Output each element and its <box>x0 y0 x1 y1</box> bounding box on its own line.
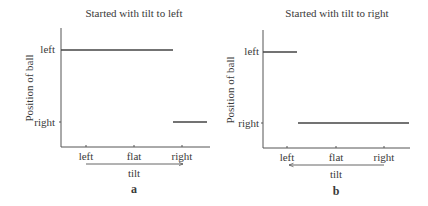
panel-a: Started with tilt to left Position of ba… <box>23 7 210 196</box>
panel-a-xtick-flat: flat <box>127 150 142 162</box>
panel-a-ytick-right: right <box>34 116 55 128</box>
panel-a-ylabel: Position of ball <box>23 54 35 121</box>
panel-b: Started with tilt to right Position of b… <box>224 7 410 198</box>
panel-a-ytick-left: left <box>40 43 55 55</box>
panel-a-xtick-left: left <box>79 150 94 162</box>
panel-b-label: b <box>333 184 340 198</box>
panel-b-ytick-left: left <box>244 45 259 57</box>
panel-b-ylabel: Position of ball <box>224 56 236 123</box>
panel-b-xtick-left: left <box>280 151 295 163</box>
panel-a-xlabel: tilt <box>128 167 140 179</box>
panel-a-title: Started with tilt to left <box>85 7 182 19</box>
panel-b-ytick-right: right <box>238 117 259 129</box>
panel-a-label: a <box>131 182 137 196</box>
panel-b-xtick-right: right <box>374 151 395 163</box>
figure: Started with tilt to left Position of ba… <box>0 0 428 206</box>
panel-a-xtick-right: right <box>172 150 193 162</box>
panel-b-xtick-flat: flat <box>329 151 344 163</box>
panel-b-title: Started with tilt to right <box>285 7 388 19</box>
panel-b-xlabel: tilt <box>330 168 342 180</box>
